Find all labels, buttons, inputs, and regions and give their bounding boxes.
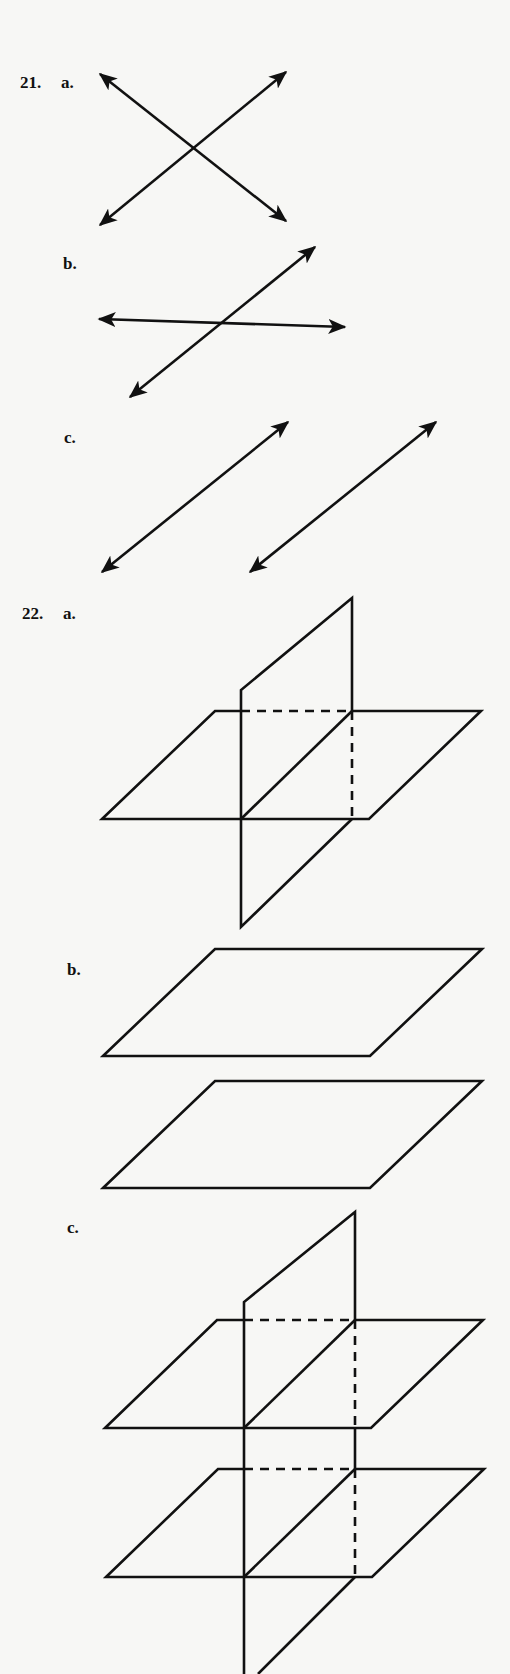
intersection-line bbox=[244, 1320, 355, 1428]
plane-bottom bbox=[103, 1081, 482, 1188]
horizontal-plane-edge bbox=[106, 1469, 244, 1577]
figure-22a-intersecting-planes bbox=[102, 598, 481, 927]
geometry-figures bbox=[0, 0, 510, 1674]
horizontal-plane-edge bbox=[244, 1469, 484, 1577]
figure-21b-intersecting-lines bbox=[99, 247, 345, 397]
vertical-plane-edge bbox=[258, 1577, 355, 1674]
figure-21c-parallel-lines bbox=[102, 422, 436, 572]
plane-top bbox=[103, 949, 482, 1056]
line-arrow bbox=[102, 422, 288, 572]
horizontal-plane-edge bbox=[244, 1320, 483, 1428]
line-arrow bbox=[99, 319, 345, 327]
figure-22c-plane-through-parallel-planes bbox=[105, 1212, 484, 1674]
intersection-line bbox=[244, 1469, 355, 1577]
vertical-plane-edge bbox=[241, 598, 352, 819]
horizontal-plane-edge bbox=[241, 711, 481, 819]
intersection-line bbox=[241, 711, 352, 819]
horizontal-plane-edge bbox=[105, 1320, 244, 1428]
figure-22b-parallel-planes bbox=[103, 949, 482, 1188]
vertical-plane-edge bbox=[241, 819, 352, 927]
figure-21a-intersecting-lines bbox=[100, 72, 286, 225]
horizontal-plane-edge bbox=[102, 711, 241, 819]
line-arrow bbox=[250, 422, 436, 572]
